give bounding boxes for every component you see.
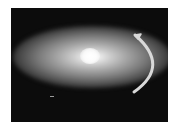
galaxy-photo <box>11 8 168 122</box>
curved-rotation-arrow-icon <box>11 8 168 122</box>
